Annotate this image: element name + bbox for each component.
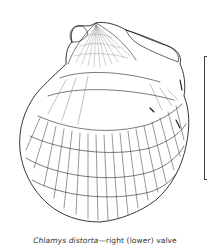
shell-illustration: [0, 0, 210, 230]
figure-caption: Chlamys distorta—right (lower) valve: [0, 236, 210, 245]
caption-species-name: Chlamys distorta: [33, 236, 98, 245]
figure: Chlamys distorta—right (lower) valve: [0, 0, 210, 251]
shell-outline: [20, 22, 189, 222]
scale-bar: [204, 56, 207, 180]
caption-separator: —: [98, 236, 106, 245]
caption-description: right (lower) valve: [106, 236, 177, 245]
